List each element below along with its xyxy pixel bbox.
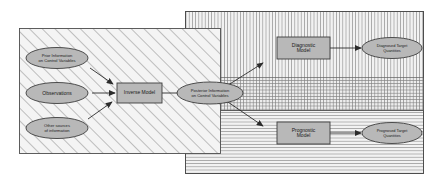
node-prognostic-model <box>277 122 330 144</box>
node-diagnosed-target <box>362 38 422 59</box>
node-observations <box>26 83 88 104</box>
diagram-graphics <box>0 0 442 186</box>
node-posterior <box>177 82 243 104</box>
node-diagnostic-model <box>277 37 330 59</box>
node-inverse-model <box>117 83 162 103</box>
diagram-canvas: Prior Informationon Control Variables Ob… <box>0 0 442 186</box>
node-prior <box>26 48 88 69</box>
node-other-sources <box>26 118 88 139</box>
node-prognosed-target <box>362 123 422 144</box>
